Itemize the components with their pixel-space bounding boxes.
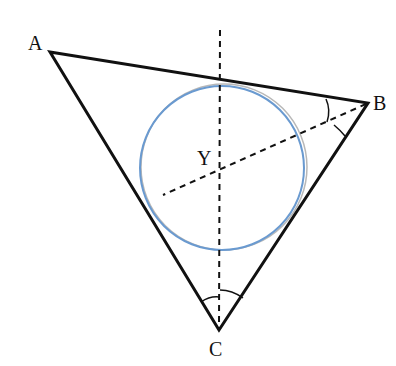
vertex-label-B: B [373,93,386,113]
angle-bisector-B [163,104,366,195]
triangle-diagram [0,0,396,366]
vertex-label-C: C [209,339,222,359]
diagram-canvas: A B C Y [0,0,396,366]
triangle-ABC [50,52,368,330]
vertex-label-A: A [28,33,42,53]
angle-arc-B-lower [334,125,345,136]
angle-arc-B-upper [326,99,329,122]
angle-arc-C-left [201,297,219,302]
incenter-label-Y: Y [197,148,211,168]
angle-bisector-C [219,30,220,330]
